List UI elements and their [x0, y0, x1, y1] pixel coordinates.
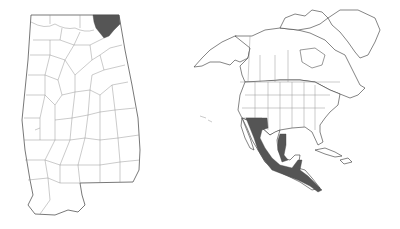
north-america-map-svg: [180, 0, 400, 229]
caribbean-islands: [315, 148, 342, 157]
alabama-county-map: Alabama county distribution map: [0, 0, 150, 229]
hispaniola: [340, 158, 352, 164]
north-america-range-map: North America range map: [180, 0, 400, 229]
alabama-map-svg: [0, 0, 150, 229]
arctic-islands: [280, 10, 328, 30]
hawaii: [200, 116, 212, 122]
